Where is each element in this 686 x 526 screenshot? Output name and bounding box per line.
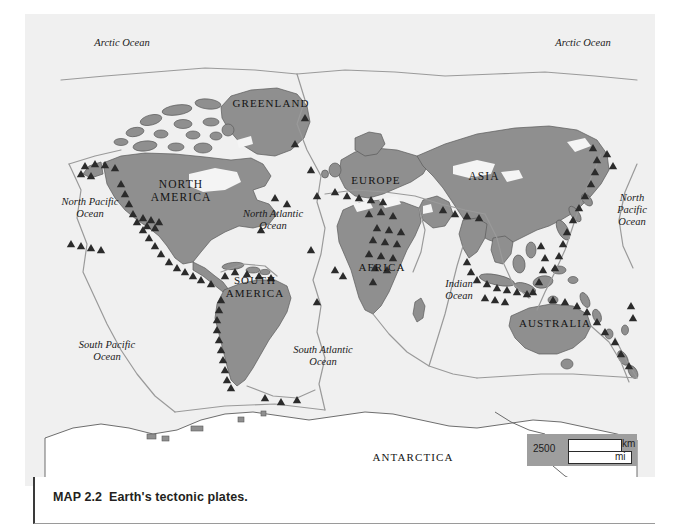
scale-mi-label: mi	[615, 451, 626, 462]
map-scale-bar: 2500 km mi	[527, 434, 637, 466]
landmass-tasmania	[561, 359, 573, 369]
world-map-graphic	[25, 14, 655, 486]
scale-km-label: km	[622, 438, 635, 449]
figure-caption-number: MAP 2.2	[53, 490, 102, 504]
figure-caption-bar: MAP 2.2Earth's tectonic plates.	[33, 477, 655, 524]
figure-page: Arctic Ocean Arctic Ocean North PacificO…	[0, 0, 686, 526]
figure-caption: MAP 2.2Earth's tectonic plates.	[53, 490, 248, 504]
figure-caption-title: Earth's tectonic plates.	[109, 490, 248, 504]
scale-value: 2500	[533, 443, 555, 454]
